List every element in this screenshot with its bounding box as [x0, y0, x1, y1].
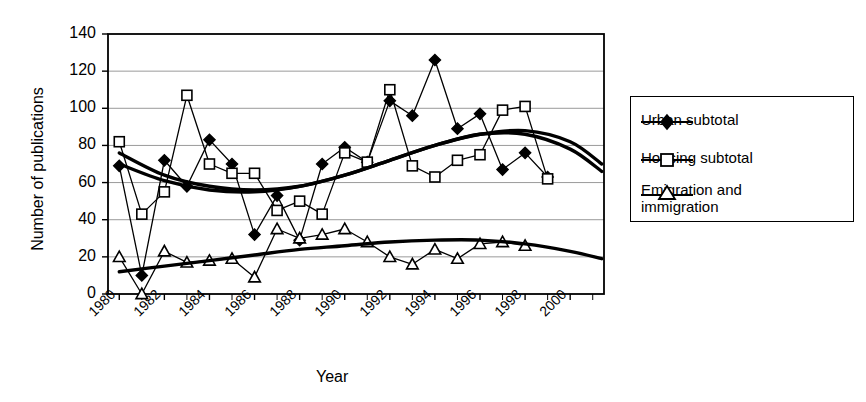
- data-point-open-square: [407, 161, 417, 171]
- data-point-open-square: [340, 148, 350, 158]
- series-housing-subtotal: [114, 85, 552, 219]
- data-point-open-square: [543, 174, 553, 184]
- plot-frame: [108, 34, 604, 294]
- data-point-open-square: [182, 90, 192, 100]
- legend-item-emigration-and-immigration[interactable]: Emigration and immigration: [639, 181, 742, 215]
- data-point-filled-diamond: [317, 158, 328, 169]
- data-point-open-square: [227, 168, 237, 178]
- data-point-filled-diamond: [452, 123, 463, 134]
- filled-diamond-icon: [639, 111, 695, 133]
- data-point-open-square: [295, 196, 305, 206]
- data-point-filled-diamond: [474, 108, 485, 119]
- data-point-open-square: [498, 105, 508, 115]
- data-point-open-square: [385, 85, 395, 95]
- open-triangle-icon: [639, 181, 695, 203]
- data-point-open-triangle: [452, 253, 464, 263]
- data-point-open-triangle: [407, 258, 419, 268]
- data-point-open-triangle: [271, 223, 283, 233]
- data-point-open-triangle: [339, 223, 351, 233]
- series-emigration-and-immigration: [113, 223, 530, 298]
- data-point-open-triangle: [429, 244, 441, 254]
- legend-item-housing-subtotal[interactable]: Housing subtotal: [639, 149, 753, 166]
- data-point-open-square: [317, 209, 327, 219]
- data-point-open-triangle: [159, 245, 171, 255]
- open-square-icon: [639, 149, 695, 171]
- data-point-open-square: [250, 168, 260, 178]
- data-point-filled-diamond: [429, 54, 440, 65]
- data-point-open-square: [430, 172, 440, 182]
- data-point-open-triangle: [113, 251, 125, 261]
- data-point-open-triangle: [384, 251, 396, 261]
- data-point-open-square: [452, 155, 462, 165]
- data-point-open-square: [204, 159, 214, 169]
- data-point-open-square: [272, 205, 282, 215]
- data-point-filled-diamond: [136, 270, 147, 281]
- data-point-open-square: [475, 150, 485, 160]
- trendline-urban-subtotal: [119, 133, 601, 190]
- legend: Urban subtotal Housing subtotal Emigrati…: [630, 96, 854, 222]
- data-point-filled-diamond: [407, 110, 418, 121]
- data-point-filled-diamond: [249, 229, 260, 240]
- chart-figure: Number of publications 02040608010012014…: [0, 0, 866, 402]
- data-point-open-square: [159, 187, 169, 197]
- data-point-open-square: [520, 101, 530, 111]
- data-point-filled-diamond: [497, 164, 508, 175]
- data-point-open-square: [137, 209, 147, 219]
- data-point-open-square: [114, 137, 124, 147]
- data-point-open-triangle: [249, 271, 261, 281]
- legend-item-urban-subtotal[interactable]: Urban subtotal: [639, 111, 739, 128]
